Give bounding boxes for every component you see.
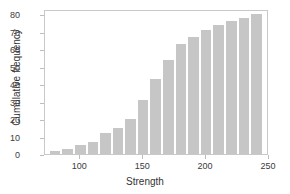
x-tick-mark	[268, 155, 269, 159]
bar	[49, 151, 62, 154]
bar	[74, 145, 87, 154]
bar	[99, 133, 112, 154]
y-tick-label: 20	[0, 116, 20, 125]
x-tick-label: 150	[127, 161, 157, 171]
y-tick-label: 80	[0, 11, 20, 20]
bar	[175, 44, 188, 154]
bar	[137, 100, 150, 154]
x-tick-mark	[205, 155, 206, 159]
bars-container	[45, 11, 267, 154]
bar	[162, 60, 175, 154]
y-tick-label: 10	[0, 134, 20, 143]
x-axis-title: Strength	[0, 176, 290, 187]
plot-area	[44, 10, 268, 155]
bar	[238, 18, 251, 154]
bar	[112, 128, 125, 154]
x-tick-label: 200	[190, 161, 220, 171]
bar	[124, 119, 137, 154]
y-tick-label: 40	[0, 81, 20, 90]
x-tick-mark	[142, 155, 143, 159]
bar	[149, 79, 162, 154]
bar	[187, 37, 200, 154]
x-tick-label: 100	[64, 161, 94, 171]
y-tick-label: 30	[0, 99, 20, 108]
bar	[61, 149, 74, 154]
chart-figure: Cumulative frequency 01020304050607080 1…	[0, 0, 290, 194]
y-tick-label: 70	[0, 29, 20, 38]
bar	[87, 142, 100, 154]
x-tick-label: 250	[253, 161, 283, 171]
bar	[250, 14, 263, 154]
y-tick-mark	[40, 155, 44, 156]
y-tick-label: 60	[0, 46, 20, 55]
bar	[225, 21, 238, 154]
x-tick-mark	[79, 155, 80, 159]
y-tick-label: 50	[0, 64, 20, 73]
y-tick-label: 0	[0, 151, 20, 160]
bar	[200, 30, 213, 154]
bar	[212, 25, 225, 154]
